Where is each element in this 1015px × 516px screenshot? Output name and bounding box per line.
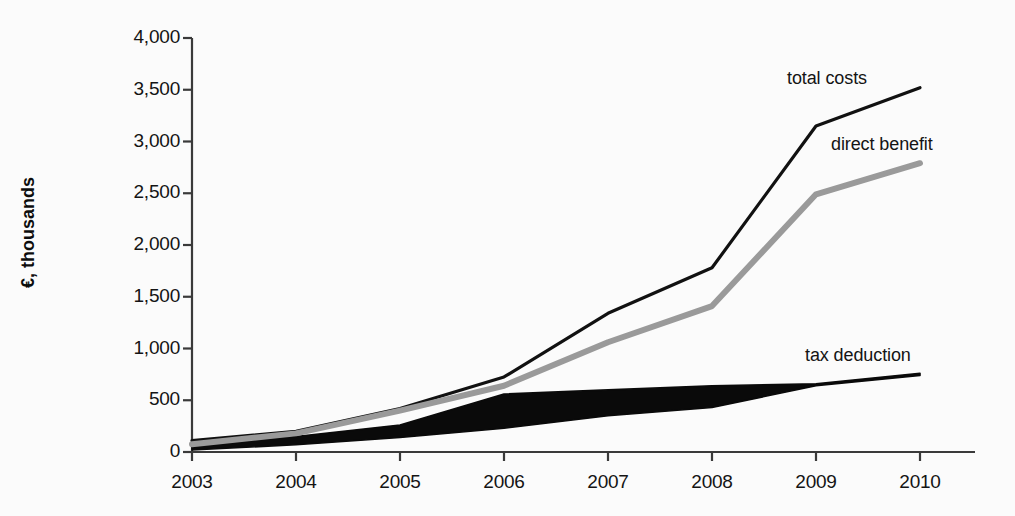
y-axis-tick-label: 3,500 — [70, 78, 180, 100]
series-label-direct-benefit: direct benefit — [831, 134, 933, 155]
x-axis-tick-label: 2003 — [140, 471, 244, 493]
x-axis-tick-label: 2009 — [764, 471, 868, 493]
y-axis-tick-label: 2,500 — [70, 181, 180, 203]
y-axis-tick-label: 0 — [70, 440, 180, 462]
series-label-tax-deduction: tax deduction — [805, 345, 911, 366]
chart-figure: 4,0003,5003,0002,5002,0001,5001,0005000 … — [0, 0, 1015, 516]
y-axis-tick-label: 1,000 — [70, 337, 180, 359]
x-axis-tick-label: 2004 — [244, 471, 348, 493]
y-axis-tick-label: 4,000 — [70, 26, 180, 48]
y-axis-tick-label: 2,000 — [70, 233, 180, 255]
y-axis-tick-label: 1,500 — [70, 285, 180, 307]
y-axis-tick-label: 500 — [70, 388, 180, 410]
x-axis-tick-label: 2007 — [556, 471, 660, 493]
y-axis-title: €, thousands — [18, 143, 39, 323]
series-label-total-costs: total costs — [787, 68, 867, 89]
x-axis-tick-label: 2005 — [348, 471, 452, 493]
x-axis-tick-label: 2008 — [660, 471, 764, 493]
y-axis-tick-label: 3,000 — [70, 130, 180, 152]
x-axis-tick-label: 2010 — [868, 471, 972, 493]
x-axis-tick-label: 2006 — [452, 471, 556, 493]
